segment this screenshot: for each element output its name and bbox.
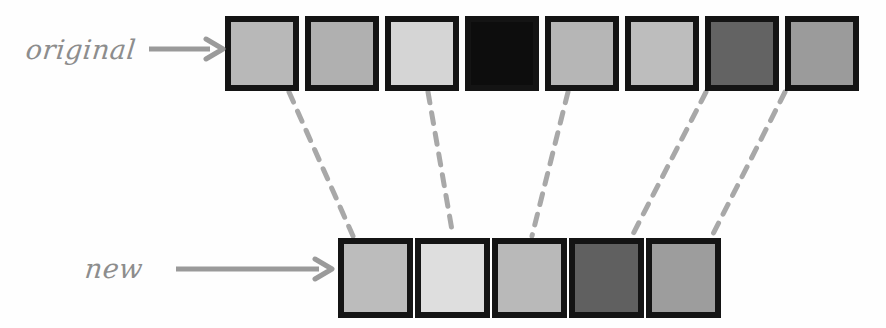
original-row-arrow-icon [148, 36, 226, 62]
tile-original-8[interactable] [785, 16, 859, 91]
connector-line-8-to-5 [712, 92, 785, 236]
tile-original-4[interactable] [465, 16, 539, 91]
new-tile-row [338, 238, 721, 318]
tile-original-3[interactable] [385, 16, 459, 91]
connector-line-1-to-1 [289, 92, 353, 236]
palette-remap-diagram: original new [0, 0, 886, 328]
connector-line-3-to-2 [428, 92, 453, 236]
tile-new-4[interactable] [569, 238, 644, 318]
tile-original-1[interactable] [225, 16, 299, 91]
tile-original-5[interactable] [545, 16, 619, 91]
tile-new-5[interactable] [646, 238, 721, 318]
tile-new-2[interactable] [415, 238, 490, 318]
row-label-new: new [83, 253, 144, 284]
new-row-arrow-icon [175, 256, 335, 282]
tile-original-7[interactable] [705, 16, 779, 91]
original-tile-row [225, 16, 859, 91]
tile-new-1[interactable] [338, 238, 413, 318]
tile-new-3[interactable] [492, 238, 567, 318]
connector-line-7-to-4 [632, 92, 706, 236]
row-label-original: original [24, 34, 137, 65]
connector-line-5-to-3 [532, 92, 568, 236]
tile-original-6[interactable] [625, 16, 699, 91]
tile-original-2[interactable] [305, 16, 379, 91]
